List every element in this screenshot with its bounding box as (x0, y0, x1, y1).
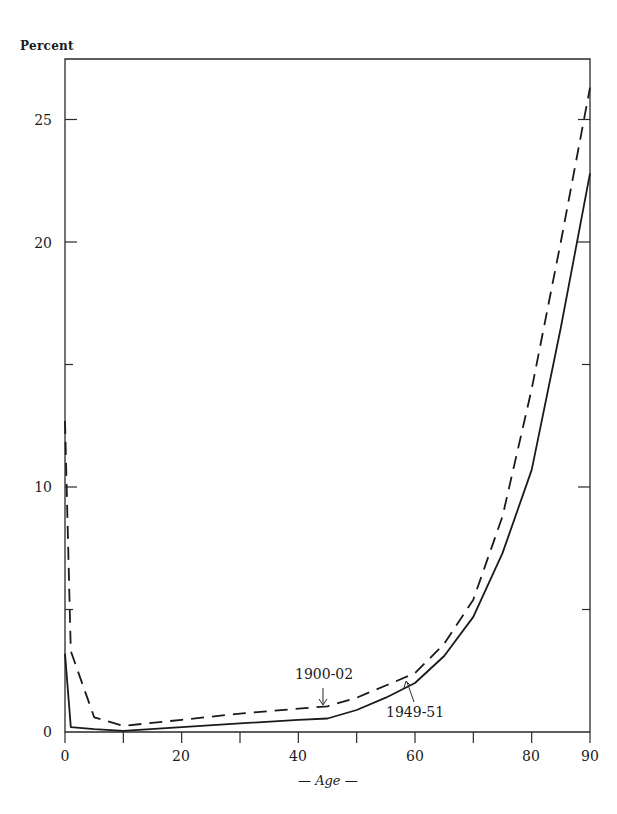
y-tick-10: 10 (22, 480, 52, 494)
plot-frame (65, 59, 590, 732)
arrow-1900-02 (319, 688, 327, 705)
annotation-1949-51: 1949-51 (386, 705, 444, 719)
series-line-1949-51 (65, 173, 590, 730)
y-tick-25: 25 (22, 113, 52, 127)
annotation-1900-02: 1900-02 (295, 667, 353, 681)
x-tick-90: 90 (575, 749, 605, 763)
x-tick-40: 40 (283, 749, 313, 763)
y-axis-title: Percent (20, 40, 74, 52)
chart-canvas (0, 0, 617, 814)
x-tick-60: 60 (400, 749, 430, 763)
data-series (65, 88, 590, 731)
x-tick-20: 20 (166, 749, 196, 763)
x-tick-80: 80 (516, 749, 546, 763)
x-tick-0: 0 (50, 749, 80, 763)
y-tick-0: 0 (22, 725, 52, 739)
y-tick-20: 20 (22, 236, 52, 250)
series-line-1900-02 (65, 88, 590, 726)
axis-ticks (65, 120, 590, 744)
x-axis-title: — Age — (298, 774, 358, 787)
